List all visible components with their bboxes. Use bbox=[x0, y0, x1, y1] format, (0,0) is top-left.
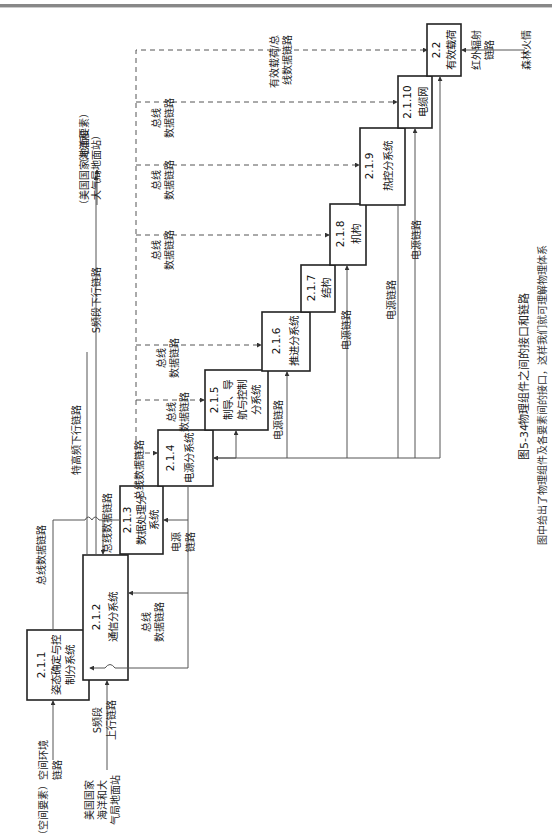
component-2-2-payload: 2.2 有效载荷 bbox=[427, 24, 461, 76]
svg-text:系统: 系统 bbox=[148, 509, 160, 530]
svg-text:总线数据链路: 总线数据链路 bbox=[101, 493, 113, 553]
noaa-ground-station-right: （美国国家海洋和 大气局地面站） bbox=[78, 130, 102, 210]
svg-text:总线: 总线 bbox=[140, 612, 152, 632]
forest-fire-label: 森林火情 bbox=[520, 30, 532, 70]
bus-data-link-2-1-3: 总线数据链路 bbox=[101, 493, 113, 554]
svg-text:2.1.5: 2.1.5 bbox=[208, 387, 220, 414]
component-2-1-5: 2.1.5 制导、导 航与控制 分系统 bbox=[205, 370, 268, 430]
bus-link-2-1-5: 总线 数据链路 bbox=[136, 392, 204, 432]
component-2-1-1: 2.1.1 姿态确定与控 制分系统 bbox=[27, 630, 89, 700]
power-link-2-1-3: 电源 链路 bbox=[164, 520, 196, 552]
svg-text:分系统: 分系统 bbox=[250, 384, 262, 415]
svg-text:总线: 总线 bbox=[150, 108, 162, 128]
svg-text:结构: 结构 bbox=[320, 278, 332, 298]
svg-text:2.1.9: 2.1.9 bbox=[363, 153, 375, 180]
component-2-1-9: 2.1.9 热控分系统 bbox=[360, 128, 405, 205]
svg-text:有效载荷: 有效载荷 bbox=[445, 30, 457, 70]
svg-text:2.1.10: 2.1.10 bbox=[401, 85, 413, 118]
svg-text:2.1.8: 2.1.8 bbox=[334, 221, 346, 248]
svg-text:2.2: 2.2 bbox=[430, 42, 442, 59]
svg-text:有效载荷/总: 有效载荷/总 bbox=[268, 35, 280, 88]
svg-text:航与控制: 航与控制 bbox=[236, 380, 248, 420]
svg-text:美国国家: 美国国家 bbox=[83, 780, 95, 820]
payload-bus-link: 有效载荷/总 线数据链路 bbox=[268, 35, 293, 88]
svg-text:数据处理分: 数据处理分 bbox=[135, 494, 147, 545]
svg-text:数据链路: 数据链路 bbox=[153, 602, 165, 642]
svg-text:数据链路: 数据链路 bbox=[163, 230, 175, 270]
svg-text:总线: 总线 bbox=[155, 348, 167, 368]
svg-text:线数据链路: 线数据链路 bbox=[281, 35, 293, 85]
power-link-2-1-9: 电源链路 bbox=[385, 206, 398, 458]
svg-text:红外辐射: 红外辐射 bbox=[470, 30, 482, 70]
svg-text:机构: 机构 bbox=[350, 224, 362, 244]
svg-text:数据链路: 数据链路 bbox=[163, 160, 175, 200]
s-band-uplink: S频段 上行链路 bbox=[91, 681, 117, 770]
svg-text:大气局地面站）: 大气局地面站） bbox=[90, 130, 102, 200]
svg-text:姿态确定与控: 姿态确定与控 bbox=[50, 634, 62, 695]
svg-text:S频段: S频段 bbox=[91, 707, 103, 733]
power-link-2-1-10: 电源链路 bbox=[410, 129, 422, 458]
bus-link-2-1-9: 总线 数据链路 bbox=[136, 160, 359, 200]
space-environment-link: （空间要素）空间环境 链路 bbox=[37, 701, 63, 839]
svg-text:数据链路: 数据链路 bbox=[168, 338, 180, 378]
component-2-1-2: 2.1.2 通信分系统 bbox=[83, 555, 128, 680]
svg-text:热控分系统: 热控分系统 bbox=[382, 140, 394, 191]
bus-link-2-1-8: 总线 数据链路 bbox=[136, 230, 329, 270]
svg-text:2.1.7: 2.1.7 bbox=[305, 275, 317, 302]
bus-data-link-2-1-2: 总线 数据链路 bbox=[129, 593, 188, 642]
svg-text:总线数据链路: 总线数据链路 bbox=[133, 440, 145, 500]
svg-text:电源链路: 电源链路 bbox=[272, 400, 284, 440]
infrared-link: 红外辐射 链路 bbox=[462, 30, 525, 70]
svg-text:上行链路: 上行链路 bbox=[105, 700, 117, 740]
component-2-1-10: 2.1.10 电缆网 bbox=[398, 76, 432, 128]
svg-text:链路: 链路 bbox=[483, 40, 495, 60]
svg-text:S频段下行链路: S频段下行链路 bbox=[90, 267, 102, 333]
figure-number: 图5-34 bbox=[518, 424, 531, 460]
svg-text:电缆网: 电缆网 bbox=[417, 87, 429, 117]
bus-link-2-1-10: 总线 数据链路 bbox=[136, 98, 397, 138]
svg-text:制导、导: 制导、导 bbox=[222, 380, 234, 420]
svg-text:总线: 总线 bbox=[150, 240, 162, 260]
svg-text:2.1.2: 2.1.2 bbox=[90, 604, 102, 631]
svg-text:总线数据链路: 总线数据链路 bbox=[35, 525, 47, 585]
svg-text:（美国国家海洋和: （美国国家海洋和 bbox=[78, 130, 90, 210]
svg-text:链路: 链路 bbox=[51, 760, 63, 780]
svg-text:电源: 电源 bbox=[170, 532, 182, 552]
svg-text:电源链路: 电源链路 bbox=[410, 220, 422, 260]
svg-text:（空间要素）空间环境: （空间要素）空间环境 bbox=[37, 740, 49, 839]
svg-text:链路: 链路 bbox=[184, 532, 196, 552]
svg-text:2.1.4: 2.1.4 bbox=[164, 444, 176, 471]
svg-text:2.1.6: 2.1.6 bbox=[270, 327, 282, 354]
svg-text:制分系统: 制分系统 bbox=[64, 644, 76, 685]
svg-text:推进分系统: 推进分系统 bbox=[288, 315, 300, 366]
component-2-1-4: 2.1.4 电源分系统 bbox=[158, 430, 213, 486]
svg-text:气局地面站: 气局地面站 bbox=[109, 775, 121, 825]
svg-text:2.1.1: 2.1.1 bbox=[35, 652, 47, 679]
noaa-ground-station-left: 美国国家 海洋和大 气局地面站 bbox=[83, 775, 121, 825]
component-2-1-8: 2.1.8 机构 bbox=[330, 204, 366, 265]
component-2-1-7: 2.1.7 结构 bbox=[301, 265, 335, 312]
svg-text:通信分系统: 通信分系统 bbox=[107, 591, 119, 642]
interface-diagram: 2.1.1 姿态确定与控 制分系统 2.1.2 通信分系统 2.1.3 数据处理… bbox=[0, 0, 552, 839]
svg-text:2.1.3: 2.1.3 bbox=[121, 507, 133, 534]
uhf-downlink: 特高频下行链路 bbox=[70, 352, 87, 554]
svg-text:电源分系统: 电源分系统 bbox=[183, 432, 195, 483]
power-link-2-1-6: 电源链路 bbox=[272, 372, 287, 458]
svg-text:特高频下行链路: 特高频下行链路 bbox=[70, 405, 82, 475]
component-2-1-6: 2.1.6 推进分系统 bbox=[262, 312, 310, 371]
figure-subtitle: 图中给出了物理组件及各要素间的接口，这样我们就可理解物理体系 bbox=[536, 245, 548, 545]
svg-text:数据链路: 数据链路 bbox=[163, 98, 175, 138]
svg-text:电源链路: 电源链路 bbox=[340, 310, 352, 350]
svg-text:总线: 总线 bbox=[150, 170, 162, 190]
s-band-downlink: S频段下行链路 bbox=[90, 176, 102, 554]
svg-text:数据链路: 数据链路 bbox=[178, 392, 190, 432]
power-link-2-1-8: 电源链路 bbox=[340, 266, 352, 458]
svg-text:总线: 总线 bbox=[165, 402, 177, 422]
figure-title: 物理组件之间的接口和链路 bbox=[517, 293, 531, 425]
svg-text:海洋和大: 海洋和大 bbox=[96, 780, 108, 820]
svg-text:电源链路: 电源链路 bbox=[385, 280, 397, 320]
